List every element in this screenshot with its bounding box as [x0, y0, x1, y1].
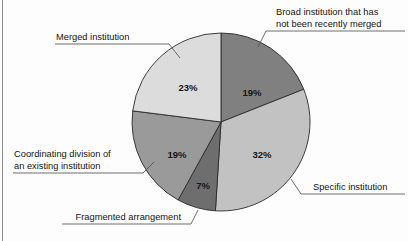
- callout-broad-institution-line2: not been recently merged: [276, 19, 381, 29]
- callout-merged-institution: Merged institution: [56, 32, 129, 42]
- slice-value-specific-institution: 32%: [252, 149, 272, 160]
- pie-slices: [132, 33, 310, 211]
- callout-fragmented-arrangement: Fragmented arrangement: [76, 212, 182, 222]
- slice-value-coordinating-division: 19%: [167, 149, 187, 160]
- slice-value-broad-institution: 19%: [242, 87, 262, 98]
- leader-line-fragmented-arrangement: [182, 210, 198, 224]
- slice-value-merged-institution: 23%: [178, 82, 198, 93]
- callout-specific-institution: Specific institution: [313, 182, 387, 192]
- pie-slice-merged-institution[interactable]: [133, 33, 221, 122]
- pie-chart-svg: 19% 32% 7% 19% 23% Broad institution tha…: [0, 0, 408, 241]
- callout-coordinating-division-line1: Coordinating division of: [14, 149, 111, 159]
- callout-broad-institution-line1: Broad institution that has: [276, 7, 379, 17]
- leader-line-specific-institution: [291, 179, 312, 194]
- callout-coordinating-division-line2: an existing institution: [14, 161, 100, 171]
- slice-value-fragmented-arrangement: 7%: [196, 180, 210, 191]
- pie-chart-figure: 19% 32% 7% 19% 23% Broad institution tha…: [0, 0, 408, 241]
